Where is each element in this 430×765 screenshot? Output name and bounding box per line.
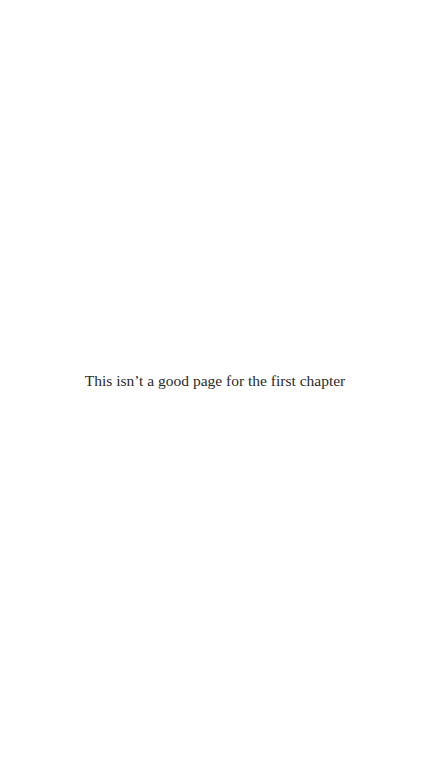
- book-page: This isn’t a good page for the first cha…: [0, 0, 430, 765]
- page-message: This isn’t a good page for the first cha…: [0, 371, 430, 391]
